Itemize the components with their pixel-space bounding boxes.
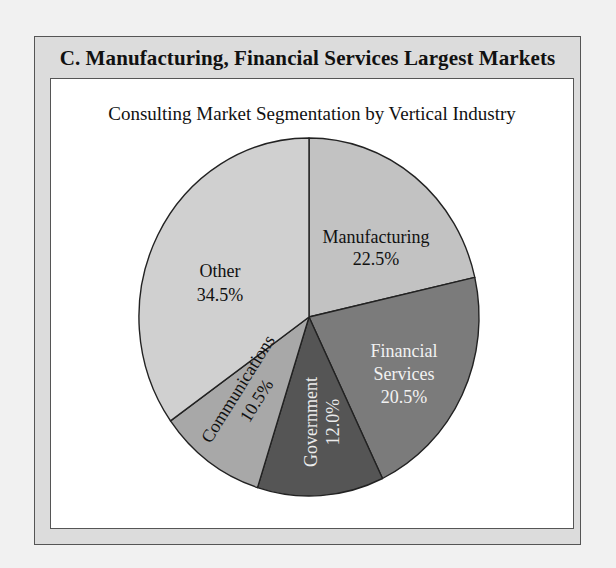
label-financial-line1: Financial xyxy=(371,341,438,361)
value-government: 12.0% xyxy=(323,399,343,446)
value-manufacturing: 22.5% xyxy=(353,249,400,269)
label-other: Other xyxy=(200,261,241,281)
label-financial-line2: Services xyxy=(374,364,435,384)
label-government: Government xyxy=(301,377,321,467)
value-financial-services: 20.5% xyxy=(381,387,428,407)
pie-chart: Manufacturing 22.5% Financial Services 2… xyxy=(0,0,616,568)
label-manufacturing: Manufacturing xyxy=(323,227,430,247)
value-other: 34.5% xyxy=(197,285,244,305)
